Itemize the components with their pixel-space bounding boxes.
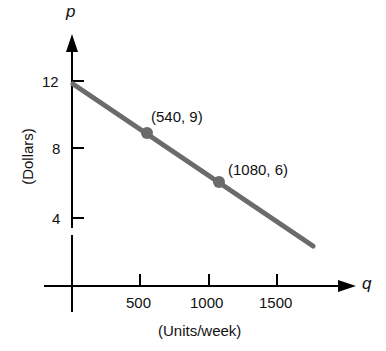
- x-tick-500: 500: [126, 294, 151, 311]
- y-axis-variable: p: [66, 2, 75, 22]
- y-axis-label: (Dollars): [19, 122, 36, 192]
- y-tick-12: 12: [42, 73, 59, 90]
- x-tick-1000: 1000: [190, 294, 223, 311]
- x-axis-arrow-icon: [338, 280, 356, 292]
- point-1080-6: [213, 176, 225, 188]
- point-540-9: [141, 127, 153, 139]
- x-axis-variable: q: [362, 274, 371, 294]
- y-axis-arrow-icon: [66, 34, 78, 52]
- y-tick-4: 4: [52, 210, 60, 227]
- point-label-1080-6: (1080, 6): [228, 161, 288, 178]
- y-tick-8: 8: [52, 140, 60, 157]
- x-tick-1500: 1500: [259, 294, 292, 311]
- x-axis-label: (Units/week): [158, 322, 241, 339]
- point-label-540-9: (540, 9): [151, 108, 203, 125]
